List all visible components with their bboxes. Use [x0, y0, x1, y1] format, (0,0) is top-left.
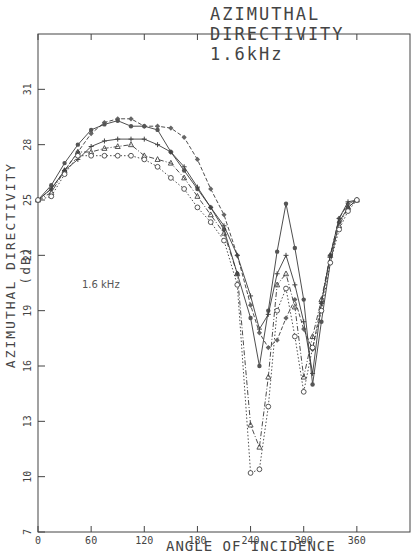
x-tick-label: 120 — [135, 535, 153, 546]
data-series-line — [38, 119, 357, 350]
data-point-marker — [89, 153, 94, 158]
data-point-marker — [129, 124, 133, 128]
data-point-marker — [102, 153, 107, 158]
data-point-marker — [248, 316, 252, 320]
y-tick-label: 28 — [22, 139, 33, 151]
data-point-marker — [76, 142, 80, 146]
data-point-marker — [292, 334, 297, 339]
data-point-marker — [257, 467, 262, 472]
chart-canvas: 06012018024030036071013161922252831 — [0, 0, 420, 559]
data-point-marker — [128, 116, 133, 121]
frequency-annotation: 1.6 kHz — [82, 279, 120, 290]
data-point-marker — [266, 345, 271, 350]
data-point-marker — [283, 315, 288, 320]
data-point-marker — [257, 444, 262, 449]
data-point-marker — [102, 122, 106, 126]
data-point-marker — [142, 124, 146, 128]
data-point-marker — [89, 128, 93, 132]
y-tick-label: 13 — [22, 415, 33, 427]
data-point-marker — [319, 308, 324, 313]
data-point-marker — [302, 297, 306, 301]
chart-title: AZIMUTHAL DIRECTIVITY 1.6kHz — [210, 4, 420, 64]
data-point-marker — [116, 118, 120, 122]
data-point-marker — [328, 260, 333, 265]
y-axis-label: AZIMUTHAL DIRECTIVITY (dB) — [3, 155, 33, 375]
data-point-marker — [208, 220, 213, 225]
data-point-marker — [284, 286, 289, 291]
x-axis-label: ANGLE OF INCIDENCE — [166, 538, 336, 554]
data-point-marker — [301, 389, 306, 394]
data-point-marker — [142, 157, 147, 162]
data-point-marker — [248, 471, 253, 476]
y-tick-label: 10 — [22, 471, 33, 483]
data-point-marker — [275, 308, 280, 313]
data-point-marker — [284, 201, 288, 205]
data-point-marker — [182, 135, 187, 140]
data-point-marker — [275, 338, 280, 343]
y-tick-label: 31 — [22, 83, 33, 95]
data-point-marker — [155, 164, 160, 169]
x-tick-label: 360 — [348, 535, 366, 546]
data-point-marker — [195, 205, 200, 210]
data-point-marker — [310, 382, 314, 386]
data-point-marker — [346, 209, 351, 214]
data-point-marker — [195, 157, 200, 162]
data-point-marker — [275, 249, 279, 253]
data-point-marker — [266, 404, 271, 409]
x-tick-label: 0 — [35, 535, 41, 546]
data-point-marker — [62, 161, 66, 165]
data-point-marker — [222, 238, 227, 243]
data-series-line — [38, 139, 357, 373]
data-point-marker — [319, 320, 323, 324]
data-point-marker — [115, 153, 120, 158]
data-point-marker — [155, 128, 159, 132]
data-point-marker — [354, 198, 359, 203]
data-point-marker — [221, 212, 226, 217]
data-point-marker — [75, 153, 80, 158]
data-series-line — [38, 156, 357, 473]
data-point-marker — [182, 187, 187, 192]
data-point-marker — [168, 175, 173, 180]
data-point-marker — [293, 246, 297, 250]
data-point-marker — [208, 186, 213, 191]
y-tick-label: 7 — [22, 529, 33, 535]
data-point-marker — [257, 364, 261, 368]
data-point-marker — [310, 345, 315, 350]
data-point-marker — [49, 194, 54, 199]
x-tick-label: 60 — [85, 535, 97, 546]
data-point-marker — [62, 172, 67, 177]
data-point-marker — [235, 282, 240, 287]
data-point-marker — [36, 198, 41, 203]
data-point-marker — [337, 227, 342, 232]
data-point-marker — [155, 157, 160, 162]
data-point-marker — [129, 153, 134, 158]
